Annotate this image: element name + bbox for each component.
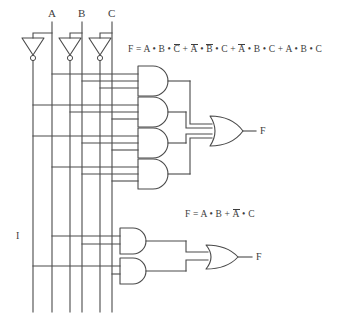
bus-note-label: I xyxy=(16,231,19,241)
input-label-a: A xyxy=(48,8,56,19)
equation-and-dot: • xyxy=(207,209,216,219)
equation-literal-C-bar: C xyxy=(174,45,181,55)
equation-and-dot: • xyxy=(240,209,249,219)
equation-and-dot: • xyxy=(198,44,207,54)
equation-and-dot: • xyxy=(260,44,269,54)
and-gate-3 xyxy=(33,128,186,158)
inverter-b xyxy=(59,33,82,312)
or-gate-bottom xyxy=(206,245,252,269)
equation-top: F = A • B • C + A • B • C + A • B • C + … xyxy=(128,45,322,55)
equation-literal-C: C xyxy=(248,209,255,219)
equation-literal-B-bar: B xyxy=(206,45,213,55)
equation-and-dot: • xyxy=(165,44,174,54)
inverter-c xyxy=(89,33,112,312)
equation-and-dot: • xyxy=(150,44,159,54)
or-gate-top xyxy=(210,116,256,146)
equation-equals: = xyxy=(133,44,143,54)
equation-plus: + xyxy=(228,44,239,54)
input-label-b: B xyxy=(78,8,85,19)
equation-literal-A-bar: A xyxy=(233,210,240,220)
equation-equals: = xyxy=(190,209,200,219)
inverter-a xyxy=(22,33,52,312)
and-gate-4 xyxy=(52,159,190,189)
equation-and-dot: • xyxy=(213,44,222,54)
or-input-routing-top xyxy=(186,81,212,174)
equation-plus: + xyxy=(180,44,191,54)
equation-literal-C: C xyxy=(315,44,322,54)
circuit-diagram-canvas: A B C I F F F = A • B • C + A • B • C + … xyxy=(0,0,350,323)
output-label-bottom: F xyxy=(256,252,262,262)
and-gate-5 xyxy=(52,228,186,254)
input-label-c: C xyxy=(108,8,115,19)
equation-and-dot: • xyxy=(245,44,254,54)
and-gate-6 xyxy=(33,258,186,284)
equation-literal-A-bar: A xyxy=(238,45,245,55)
and-gate-1 xyxy=(52,66,190,96)
equation-plus: + xyxy=(222,209,233,219)
or-input-routing-bottom xyxy=(186,241,208,271)
equation-plus: + xyxy=(275,44,285,54)
equation-literal-A-bar: A xyxy=(191,45,198,55)
output-label-top: F xyxy=(260,126,266,136)
and-gate-2 xyxy=(33,97,186,127)
equation-bottom: F = A • B + A • C xyxy=(185,210,255,220)
